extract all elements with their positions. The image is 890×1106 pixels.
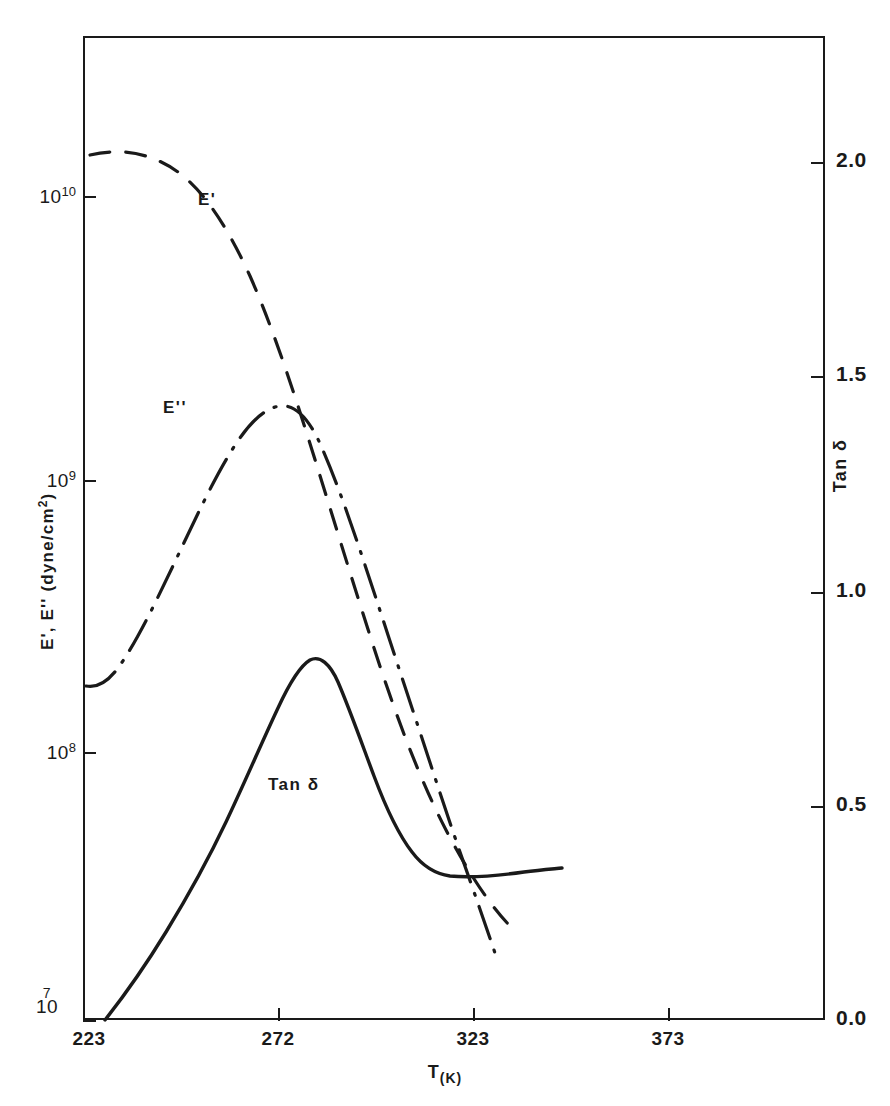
left-axis-title: E', E'' (dyne/cm2): [36, 446, 59, 696]
left-tick-label-1e8: 108: [18, 740, 76, 764]
tick-left-1e10: [83, 196, 96, 198]
right-tick-label-2-0: 2.0: [836, 148, 867, 172]
dma-chart-figure: 1010 109 108 7 10 E', E'' (dyne/cm2) 2.0…: [0, 0, 890, 1106]
right-tick-label-1-5: 1.5: [836, 362, 867, 386]
plot-frame: [83, 36, 825, 1020]
e-prime-label: E': [198, 190, 216, 210]
x-axis-title: T(K): [0, 1062, 890, 1086]
tick-left-1e8: [83, 752, 96, 754]
right-tick-label-0-0: 0.0: [836, 1006, 867, 1030]
x-tick-label-223: 223: [72, 1028, 105, 1050]
right-tick-label-0-5: 0.5: [836, 792, 867, 816]
tick-bottom-272: [278, 1008, 280, 1021]
tick-left-1e9: [83, 480, 96, 482]
right-tick-label-1-0: 1.0: [836, 578, 867, 602]
x-tick-label-373: 373: [651, 1028, 684, 1050]
tick-bottom-373: [668, 1008, 670, 1021]
tick-bottom-323: [473, 1008, 475, 1021]
x-tick-label-272: 272: [261, 1028, 294, 1050]
x-tick-label-323: 323: [456, 1028, 489, 1050]
tick-right-1-5: [811, 376, 825, 378]
left-tick-label-1e7: 7 10: [18, 988, 76, 1015]
tick-right-0-5: [811, 806, 825, 808]
tick-left-1e7: [83, 1020, 96, 1022]
tick-right-1-0: [811, 592, 825, 594]
left-tick-label-1e10: 1010: [18, 184, 76, 208]
tick-right-2-0: [811, 162, 825, 164]
right-axis-title: Tan δ: [830, 406, 851, 526]
e-double-prime-label: E'': [163, 398, 187, 418]
tan-delta-label: Tan δ: [268, 775, 320, 795]
